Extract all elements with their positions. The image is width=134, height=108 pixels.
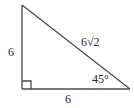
angle-label: 45° (92, 72, 109, 86)
hypotenuse-label: 6√2 (81, 35, 100, 49)
hypotenuse (22, 5, 130, 89)
right-triangle-diagram: 6 6 6√2 45° (0, 0, 134, 108)
right-angle-marker-icon (22, 81, 31, 89)
horizontal-leg-label: 6 (65, 92, 71, 106)
vertical-leg-label: 6 (8, 45, 14, 59)
